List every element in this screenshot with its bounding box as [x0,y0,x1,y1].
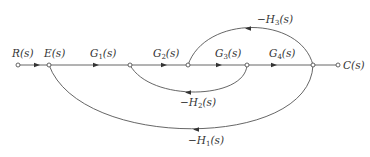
node-5 [311,63,315,67]
label-h3: −H3(s) [257,13,293,27]
label-c: C(s) [343,59,365,71]
arrow-h2 [185,90,191,94]
arrow-g2 [161,63,167,67]
label-g2: G2(s) [153,47,179,61]
node-2 [128,63,132,67]
arrow-g4 [271,63,277,67]
node-c [336,63,340,67]
node-4 [245,63,249,67]
label-e: E(s) [43,47,65,59]
node-r [16,63,20,67]
label-g1: G1(s) [90,47,116,61]
node-e [47,63,51,67]
signal-flow-graph: R(s) E(s) C(s) G1(s) G2(s) G3(s) G4(s) −… [0,0,370,157]
edge-h2 [130,65,247,92]
label-h2: −H2(s) [180,96,216,110]
label-r: R(s) [11,47,34,59]
label-g4: G4(s) [269,47,295,61]
arrow-h1 [193,127,199,131]
arrow-h3 [245,26,251,30]
label-g3: G3(s) [215,47,241,61]
arrow-g1 [93,63,99,67]
arrow-g3 [216,63,222,67]
arrow-r-e [34,63,40,67]
label-h1: −H1(s) [188,134,224,148]
node-3 [186,63,190,67]
